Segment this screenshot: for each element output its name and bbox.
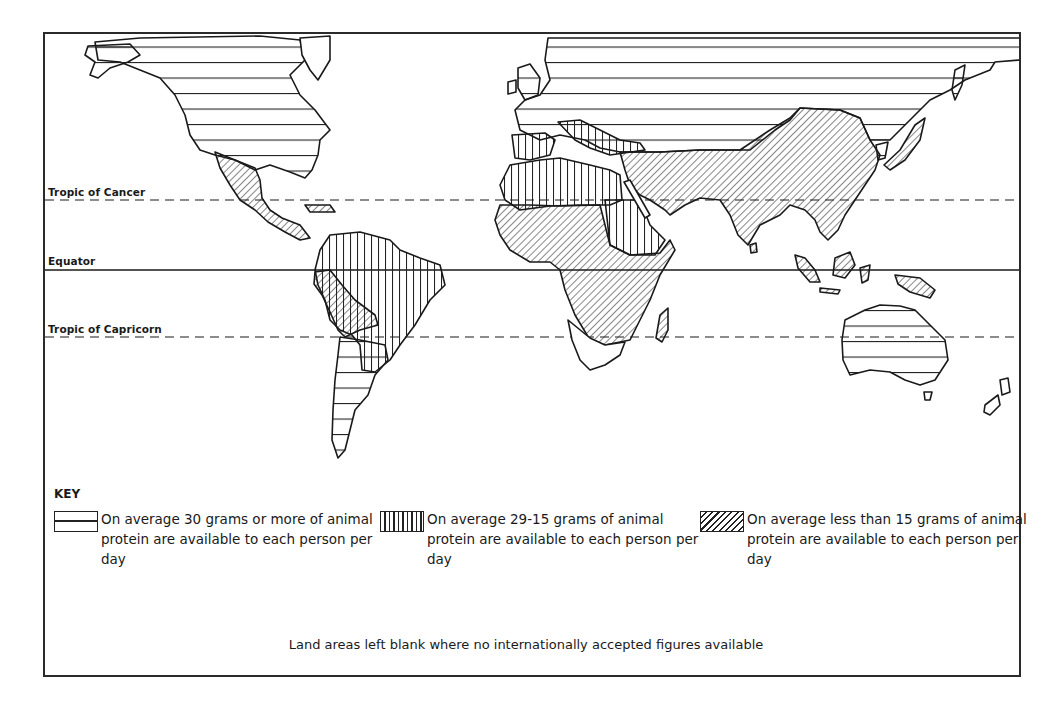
tropic-of-capricorn-label: Tropic of Capricorn bbox=[48, 323, 162, 335]
region-north-africa bbox=[500, 158, 622, 210]
diagonal-hatch-swatch-icon bbox=[700, 511, 744, 532]
region-caribbean bbox=[305, 205, 335, 212]
equator-label: Equator bbox=[48, 255, 95, 267]
legend-label-low: On average less than 15 grams of animal … bbox=[747, 509, 1027, 569]
legend-label-medium: On average 29-15 grams of animal protein… bbox=[427, 509, 707, 569]
region-sulawesi bbox=[860, 265, 870, 283]
region-sumatra bbox=[795, 255, 820, 282]
region-new-zealand-south bbox=[984, 395, 1000, 415]
horizontal-lines-swatch-icon bbox=[54, 511, 98, 532]
tropic-of-cancer-label: Tropic of Cancer bbox=[48, 186, 145, 198]
region-new-zealand bbox=[1000, 378, 1010, 395]
region-borneo bbox=[833, 252, 855, 278]
region-uk bbox=[518, 64, 540, 100]
legend-label-high: On average 30 grams or more of animal pr… bbox=[101, 509, 381, 569]
legend-item-low: On average less than 15 grams of animal … bbox=[700, 509, 1027, 569]
legend-item-medium: On average 29-15 grams of animal protein… bbox=[380, 509, 707, 569]
footnote: Land areas left blank where no internati… bbox=[0, 637, 1052, 652]
key-title: KEY bbox=[54, 487, 80, 501]
region-new-guinea bbox=[895, 275, 935, 298]
world-map bbox=[0, 0, 1052, 716]
region-greenland bbox=[300, 36, 330, 80]
region-ireland bbox=[508, 80, 516, 94]
region-java bbox=[820, 288, 840, 294]
region-sri-lanka bbox=[750, 243, 757, 253]
legend-item-high: On average 30 grams or more of animal pr… bbox=[54, 509, 381, 569]
vertical-lines-swatch-icon bbox=[380, 511, 424, 532]
region-tasmania bbox=[924, 392, 932, 400]
region-southern-south-america bbox=[332, 337, 388, 458]
region-korea bbox=[876, 142, 888, 160]
region-australia bbox=[842, 305, 948, 385]
region-southern-europe bbox=[512, 133, 555, 160]
